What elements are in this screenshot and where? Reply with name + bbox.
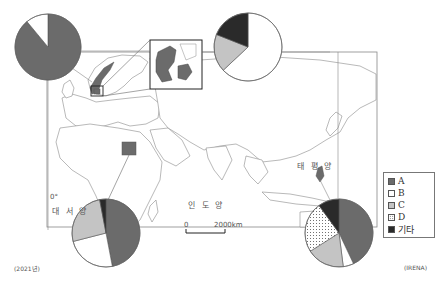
- scale-end: 2000km: [214, 221, 243, 229]
- indian-ocean-label: 인 도 양: [188, 199, 224, 210]
- legend: A B C D 기타: [383, 172, 435, 238]
- meridian-label: 0°: [50, 193, 58, 201]
- legend-swatch-d: [388, 214, 395, 221]
- legend-item-b: B: [388, 187, 434, 199]
- legend-item-c: C: [388, 199, 434, 211]
- pie-norway: [15, 14, 81, 80]
- scale-bar: [186, 229, 225, 233]
- legend-item-d: D: [388, 211, 434, 223]
- scale-zero: 0: [184, 221, 188, 229]
- legend-swatch-a: [388, 178, 395, 185]
- map-figure: [0, 0, 440, 285]
- atlantic-ocean-label: 대 서 양: [52, 205, 88, 216]
- pie-philippines: [305, 199, 373, 267]
- legend-swatch-other: [388, 226, 395, 233]
- pacific-ocean-label: 태 평 양: [297, 160, 333, 171]
- legend-swatch-b: [388, 190, 395, 197]
- denmark-region: [94, 89, 100, 94]
- year-note: (2021년): [14, 264, 40, 273]
- legend-item-a: A: [388, 175, 434, 187]
- denmark-inset: [150, 40, 202, 89]
- legend-swatch-c: [388, 202, 395, 209]
- legend-item-other: 기타: [388, 223, 434, 235]
- egypt-region: [122, 142, 136, 155]
- source-note: (IRENA): [404, 264, 427, 271]
- pie-denmark: [214, 13, 282, 81]
